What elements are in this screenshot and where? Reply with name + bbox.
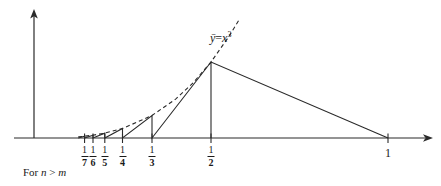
caption-m: m bbox=[58, 166, 66, 178]
plot-svg bbox=[0, 0, 441, 186]
x-tick-label-1-2: 12 bbox=[208, 145, 215, 168]
x-tick-label-1-4: 14 bbox=[119, 145, 126, 168]
curve-equation-label: ȳ=x3 bbox=[210, 30, 231, 46]
caption-relation: > bbox=[47, 166, 59, 178]
x-tick-label-1: 1 bbox=[385, 147, 391, 159]
figure-caption: For n > m bbox=[23, 166, 66, 178]
exponent-3: 3 bbox=[227, 30, 231, 39]
sawtooth-curve bbox=[78, 62, 388, 138]
x-axis bbox=[14, 134, 433, 142]
x-tick-label-1-3: 13 bbox=[148, 145, 155, 168]
x-tick-label-1-7: 17 bbox=[81, 145, 88, 168]
caption-prefix: For bbox=[23, 166, 41, 178]
y-axis bbox=[30, 9, 38, 138]
x-tick-label-1-6: 16 bbox=[90, 145, 97, 168]
x-tick-label-1-5: 15 bbox=[101, 145, 108, 168]
figure-canvas: 1716151413121 ȳ=x3 For n > m bbox=[0, 0, 441, 186]
